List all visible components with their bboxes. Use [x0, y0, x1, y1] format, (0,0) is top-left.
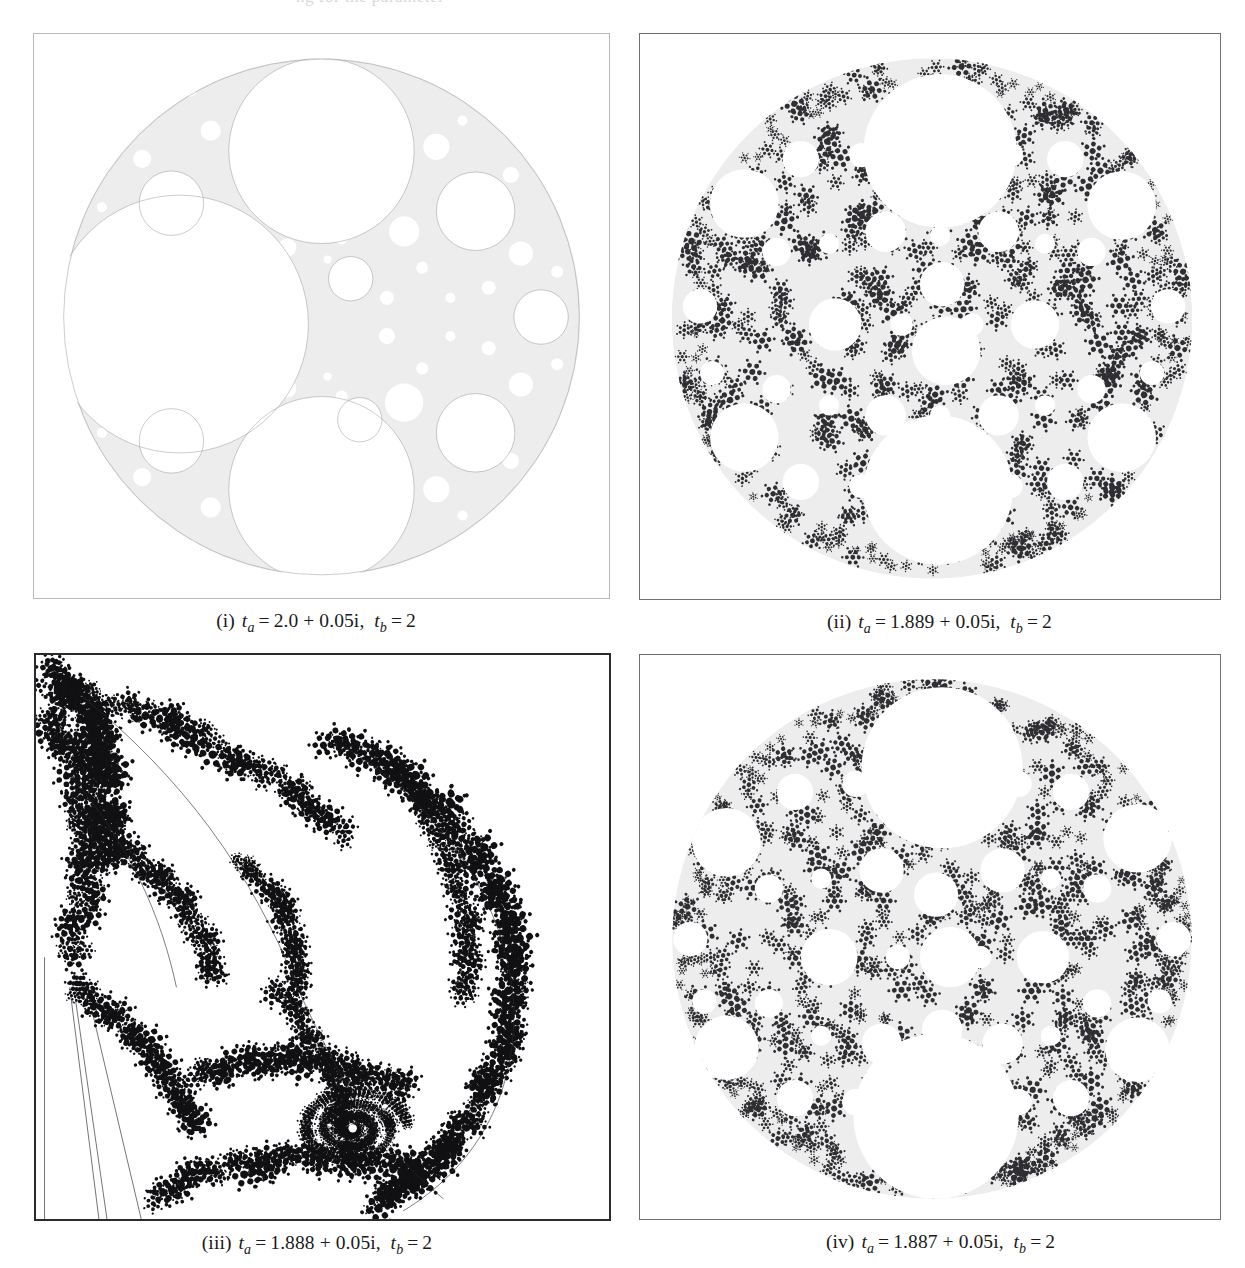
panel-ii-ta-sub: a: [864, 620, 871, 636]
panel-ii: (ii)ta=1.889 + 0.05i, tb=2: [622, 18, 1245, 637]
panel-iv-caption: (iv)ta=1.887 + 0.05i, tb=2: [622, 1220, 1245, 1257]
panel-ii-comma: ,: [996, 611, 1001, 632]
panel-i-comma: ,: [359, 610, 364, 631]
panel-ii-eq-2: =: [1023, 611, 1042, 632]
panel-iv-tb-value: 2: [1045, 1231, 1055, 1252]
panel-iv-ta-value: 1.887 + 0.05i: [893, 1231, 998, 1252]
panel-iv-label: (iv): [826, 1231, 862, 1252]
panel-ii-tb-sub: b: [1016, 620, 1023, 636]
panel-ii-caption: (ii)ta=1.889 + 0.05i, tb=2: [622, 600, 1245, 637]
panel-iii-caption: (iii)ta=1.888 + 0.05i, tb=2: [0, 1221, 622, 1258]
panel-i-eq-1: =: [255, 610, 274, 631]
panel-iv-eq-2: =: [1026, 1231, 1045, 1252]
panel-ii-tb-value: 2: [1042, 611, 1052, 632]
panel-iii: (iii)ta=1.888 + 0.05i, tb=2: [0, 637, 622, 1258]
figure-page: ng for the parameter: [0, 0, 1245, 1268]
panel-iii-eq-2: =: [403, 1232, 422, 1253]
panel-ii-limit-set: [640, 34, 1220, 599]
panel-i-ta-sub: a: [247, 619, 254, 635]
panel-iv-frame: [639, 654, 1221, 1220]
panel-iv-eq-1: =: [874, 1231, 893, 1252]
panel-i-limit-set: [34, 34, 609, 598]
panel-i-tb-sub: b: [380, 619, 387, 635]
panel-iii-tb-value: 2: [422, 1232, 432, 1253]
cutoff-text-bleed: ng for the parameter: [0, 0, 1245, 12]
panel-i-caption: (i)ta=2.0 + 0.05i, tb=2: [0, 599, 622, 636]
figure-row-bottom: (iii)ta=1.888 + 0.05i, tb=2: [0, 637, 1245, 1258]
figure-row-top: (i)ta=2.0 + 0.05i, tb=2: [0, 18, 1245, 637]
panel-i-frame: [33, 33, 610, 599]
panel-i: (i)ta=2.0 + 0.05i, tb=2: [0, 18, 622, 637]
panel-iii-frame: [34, 653, 611, 1221]
panel-i-eq-2: =: [387, 610, 406, 631]
panel-i-label: (i): [216, 610, 242, 631]
panel-ii-label: (ii): [827, 611, 858, 632]
panel-i-tb-value: 2: [406, 610, 416, 631]
panel-ii-frame: [639, 33, 1221, 600]
panel-iv-limit-set: [640, 655, 1220, 1219]
panel-iii-comma: ,: [376, 1232, 381, 1253]
figure-grid: (i)ta=2.0 + 0.05i, tb=2: [0, 18, 1245, 1258]
cutoff-text: ng for the parameter: [296, 0, 444, 7]
panel-i-ta-value: 2.0 + 0.05i: [274, 610, 360, 631]
panel-iv-comma: ,: [999, 1231, 1004, 1252]
panel-iii-eq-1: =: [251, 1232, 270, 1253]
panel-iii-ta-value: 1.888 + 0.05i: [270, 1232, 375, 1253]
panel-iv: (iv)ta=1.887 + 0.05i, tb=2: [622, 637, 1245, 1258]
panel-iii-limit-set: [36, 655, 609, 1219]
panel-ii-ta-value: 1.889 + 0.05i: [890, 611, 995, 632]
panel-ii-eq-1: =: [871, 611, 890, 632]
panel-iii-label: (iii): [202, 1232, 239, 1253]
